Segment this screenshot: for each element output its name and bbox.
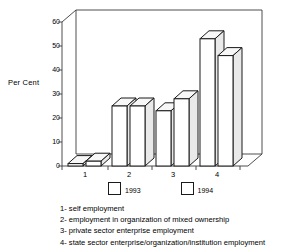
legend-swatch-1993 — [108, 182, 121, 195]
bar-group-4 — [200, 31, 242, 166]
chart-figure: Per Cent 60 50 40 30 20 10 0 1 2 3 4 — [0, 0, 285, 251]
bar-1994-cat3 — [174, 91, 198, 166]
legend-label-1994: 1994 — [198, 187, 214, 195]
bar-1994-cat4 — [218, 48, 242, 166]
chart-footnotes: 1- self employment 2- employment in orga… — [60, 203, 265, 248]
x-axis-ticks — [62, 166, 240, 170]
bar-group-3 — [156, 91, 198, 166]
bar-1994-cat2 — [130, 98, 154, 166]
legend-item-1993[interactable]: 1993 — [108, 182, 141, 195]
chart-legend: 1993 1994 — [108, 182, 213, 195]
plot-area — [0, 0, 285, 200]
bar-group-2 — [112, 98, 154, 166]
footnote-line-2: 2- employment in organization of mixed o… — [60, 214, 265, 225]
footnote-line-4: 4- state sector enterprise/organization/… — [60, 237, 265, 248]
legend-swatch-1994 — [181, 182, 194, 195]
footnote-line-3: 3- private sector enterprise employment — [60, 225, 265, 236]
y-axis-ticks — [58, 22, 62, 166]
bar-group-1 — [68, 153, 110, 166]
legend-label-1993: 1993 — [125, 187, 141, 195]
footnote-line-1: 1- self employment — [60, 203, 265, 214]
legend-item-1994[interactable]: 1994 — [181, 182, 214, 195]
